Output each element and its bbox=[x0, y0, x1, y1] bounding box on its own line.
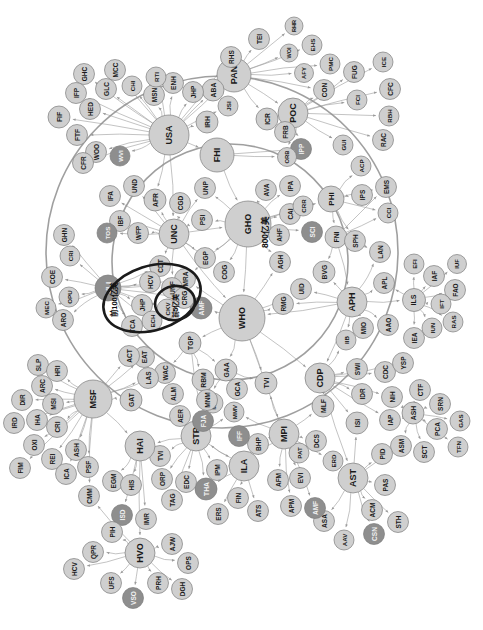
node-CRI2[interactable]: CRI bbox=[47, 417, 68, 438]
node-TOS[interactable]: TOS bbox=[97, 223, 117, 243]
node-UFS[interactable]: UFS bbox=[101, 573, 122, 594]
node-PCA[interactable]: PCA bbox=[427, 419, 448, 440]
node-AER[interactable]: AER bbox=[170, 406, 191, 427]
node-WFP[interactable]: WFP bbox=[128, 223, 149, 244]
node-RMG[interactable]: RMG bbox=[273, 294, 294, 315]
node-PMC[interactable]: PMC bbox=[320, 54, 340, 74]
node-CON[interactable]: CON bbox=[314, 80, 335, 101]
node-AVA[interactable]: AVA bbox=[256, 180, 277, 201]
node-HVO[interactable]: HVO bbox=[125, 538, 155, 568]
node-MIO[interactable]: MIO bbox=[353, 318, 374, 339]
node-AHF[interactable]: AHF bbox=[269, 225, 290, 246]
node-FUG[interactable]: FUG bbox=[344, 62, 365, 83]
node-ASH[interactable]: ASH bbox=[402, 402, 424, 424]
node-IFF[interactable]: IFF bbox=[229, 426, 250, 447]
node-PIH[interactable]: PIH bbox=[102, 522, 123, 543]
node-IAF[interactable]: IAF bbox=[424, 266, 445, 287]
node-APM[interactable]: APM bbox=[281, 496, 302, 517]
node-COG[interactable]: COG bbox=[214, 262, 235, 283]
node-ICA[interactable]: ICA bbox=[56, 464, 77, 485]
node-CRI[interactable]: CRI bbox=[60, 246, 80, 266]
node-FTF[interactable]: FTF bbox=[67, 125, 88, 146]
node-FIF[interactable]: FIF bbox=[48, 106, 70, 128]
node-CCI[interactable]: CCI bbox=[378, 203, 398, 223]
node-ORP[interactable]: ORP bbox=[152, 469, 173, 490]
node-FNI[interactable]: FNI bbox=[325, 226, 347, 248]
node-FJA[interactable]: FJA bbox=[193, 411, 214, 432]
node-SCT[interactable]: SCT bbox=[414, 442, 435, 463]
node-PSF[interactable]: PSF bbox=[78, 457, 99, 478]
node-MSI[interactable]: MSI bbox=[43, 394, 64, 415]
node-CSN[interactable]: CSN bbox=[364, 524, 385, 545]
node-FCI[interactable]: FCI bbox=[347, 90, 367, 110]
node-JSI[interactable]: JSI bbox=[218, 96, 238, 116]
node-HIS[interactable]: HIS bbox=[121, 475, 142, 496]
node-VSO[interactable]: VSO bbox=[123, 588, 144, 609]
node-HAI[interactable]: HAI bbox=[125, 431, 155, 461]
node-WOI[interactable]: WOI bbox=[280, 44, 298, 62]
node-CFC[interactable]: CFC bbox=[380, 79, 401, 100]
node-HCV2[interactable]: HCV bbox=[140, 272, 161, 293]
node-EGP[interactable]: EGP bbox=[195, 248, 216, 269]
node-OPS[interactable]: OPS bbox=[178, 553, 199, 574]
node-ICE[interactable]: ICE bbox=[373, 52, 393, 72]
node-ARO[interactable]: ARO bbox=[53, 310, 74, 331]
node-COE[interactable]: COE bbox=[42, 267, 63, 288]
node-GAA[interactable]: GAA bbox=[215, 359, 237, 381]
node-PRH[interactable]: PRH bbox=[148, 573, 169, 594]
node-PID[interactable]: PID bbox=[372, 444, 393, 465]
node-AGH[interactable]: AGH bbox=[270, 252, 291, 273]
node-RTI[interactable]: RTI bbox=[146, 67, 166, 87]
node-EHS[interactable]: EHS bbox=[302, 35, 322, 55]
node-ACP[interactable]: ACP bbox=[351, 156, 371, 176]
node-ERD[interactable]: ERD bbox=[323, 451, 343, 471]
node-MSF[interactable]: MSF bbox=[74, 380, 112, 418]
node-THA[interactable]: THA bbox=[195, 478, 217, 500]
node-MSN[interactable]: MSN bbox=[144, 85, 165, 106]
node-RHR[interactable]: RHR bbox=[285, 17, 303, 35]
node-EVI[interactable]: EVI bbox=[290, 468, 311, 489]
node-EGM[interactable]: EGM bbox=[103, 471, 124, 492]
node-NIH[interactable]: NIH bbox=[382, 387, 403, 408]
node-IRH[interactable]: IRH bbox=[196, 111, 218, 133]
node-RAS[interactable]: RAS bbox=[443, 312, 463, 332]
node-WHO[interactable]: WHO bbox=[219, 295, 265, 341]
node-HED[interactable]: HED bbox=[80, 99, 101, 120]
node-IPS[interactable]: IPS bbox=[352, 185, 373, 206]
node-IMR[interactable]: IMR bbox=[136, 509, 157, 530]
node-ACM[interactable]: ACM bbox=[362, 500, 383, 521]
node-IPM[interactable]: IPM bbox=[207, 460, 228, 481]
node-IFT[interactable]: IFT bbox=[431, 294, 451, 314]
node-AAV[interactable]: AAV bbox=[334, 530, 354, 550]
node-ISI[interactable]: ISI bbox=[346, 412, 368, 434]
node-ATS[interactable]: ATS bbox=[248, 501, 269, 522]
node-EDC[interactable]: EDC bbox=[176, 472, 197, 493]
node-ACT[interactable]: ACT bbox=[119, 346, 140, 367]
node-MCC[interactable]: MCC bbox=[105, 60, 126, 81]
node-IFA[interactable]: IFA bbox=[100, 186, 121, 207]
node-BHP[interactable]: BHP bbox=[248, 434, 269, 455]
node-ILS[interactable]: ILS bbox=[403, 289, 426, 312]
node-AFR[interactable]: AFR bbox=[144, 189, 166, 211]
node-IUN[interactable]: IUN bbox=[422, 318, 442, 338]
node-FIN[interactable]: FIN bbox=[228, 488, 249, 509]
node-RHS[interactable]: RHS bbox=[221, 47, 242, 68]
node-PAS[interactable]: PAS bbox=[375, 475, 396, 496]
node-RBH[interactable]: RBH bbox=[379, 106, 399, 126]
node-MPI[interactable]: MPI bbox=[269, 419, 299, 449]
node-DIR[interactable]: DIR bbox=[12, 390, 33, 411]
node-TFN[interactable]: TFN bbox=[448, 437, 468, 457]
node-STH[interactable]: STH bbox=[388, 512, 409, 533]
node-IPA[interactable]: IPA bbox=[280, 176, 301, 197]
node-ERS[interactable]: ERS bbox=[208, 504, 229, 525]
node-IRD[interactable]: IRD bbox=[4, 413, 25, 434]
node-GCA[interactable]: GCA bbox=[227, 379, 248, 400]
node-IAP[interactable]: IAP bbox=[380, 410, 401, 431]
node-QPR[interactable]: QPR bbox=[83, 542, 104, 563]
node-CRR[interactable]: CRR bbox=[293, 196, 313, 216]
node-ALM[interactable]: ALM bbox=[163, 384, 184, 405]
node-IUF[interactable]: IUF bbox=[448, 255, 467, 274]
node-APH[interactable]: APH bbox=[337, 287, 367, 317]
node-AAO[interactable]: AAO bbox=[378, 315, 399, 336]
node-CGD[interactable]: CGD bbox=[170, 193, 191, 214]
